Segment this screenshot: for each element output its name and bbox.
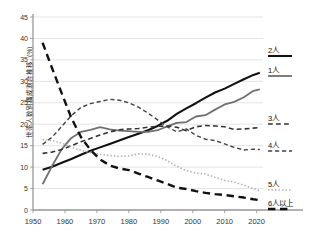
y-tick-label: 0 <box>24 207 28 214</box>
y-tick-label: 30 <box>20 78 28 85</box>
legend-label-1人: 1人 <box>268 66 280 75</box>
y-tick-label: 10 <box>20 164 28 171</box>
y-tick-label: 45 <box>20 14 28 21</box>
y-tick-label: 20 <box>20 121 28 128</box>
x-tick-label: 1970 <box>89 217 106 226</box>
x-tick-label: 1990 <box>152 217 169 226</box>
legend-label-3人: 3人 <box>268 114 280 123</box>
x-tick-label: 2000 <box>184 217 201 226</box>
chart-container: 世帯人数別構成割合推移（%） 0510152025303540451950196… <box>0 0 310 240</box>
legend-label-2人: 2人 <box>268 46 280 55</box>
x-tick-label: 1950 <box>25 217 42 226</box>
x-tick-label: 2010 <box>216 217 233 226</box>
series-line-6人以上 <box>43 43 260 200</box>
x-tick-label: 2020 <box>248 217 265 226</box>
y-tick-label: 5 <box>24 185 28 192</box>
series-line-2人 <box>43 73 260 170</box>
legend-label-5人: 5人 <box>268 180 280 189</box>
legend-label-6人以上: 6人以上 <box>268 199 294 208</box>
x-tick-label: 1980 <box>120 217 137 226</box>
line-chart-plot: 0510152025303540451950196019701980199020… <box>0 0 310 240</box>
y-tick-label: 35 <box>20 56 28 63</box>
y-tick-label: 15 <box>20 142 28 149</box>
y-tick-label: 40 <box>20 35 28 42</box>
legend-label-4人: 4人 <box>268 141 280 150</box>
series-line-1人 <box>43 89 260 184</box>
x-tick-label: 1960 <box>57 217 74 226</box>
series-line-5人 <box>43 140 260 191</box>
y-tick-label: 25 <box>20 99 28 106</box>
